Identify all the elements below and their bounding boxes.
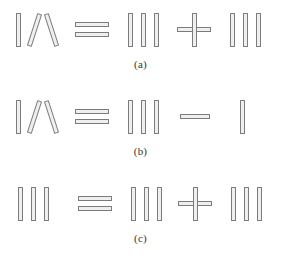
equation-b [0,93,281,141]
matchstick-vertical [240,100,245,134]
equation-c [0,180,281,228]
matchstick-vertical [44,187,49,221]
relation-equals-c [78,180,116,228]
equation-row-c: (c) [0,174,281,262]
operand-left-a-IV [16,6,60,54]
matchstick-slanted [27,100,42,134]
matchstick-vertical [257,187,262,221]
matchstick-vertical [244,187,249,221]
matchstick-vertical [154,100,159,134]
equation-row-a: (a) [0,0,281,88]
operator-plus-c [178,180,216,228]
matchstick-vertical [243,13,248,47]
matchstick-vertical [141,13,146,47]
operator-plus-a [177,6,215,54]
operand-right-a-III [230,6,266,54]
operator-minus-b [180,93,214,141]
operand-right-b-I [240,93,248,141]
matchstick-vertical [131,187,136,221]
matchstick-vertical [18,187,23,221]
caption-a: (a) [0,58,281,70]
matchstick-vertical [230,13,235,47]
operand-middle-b-III [128,93,164,141]
matchstick-figure: (a) [0,0,281,266]
matchstick-vertical [231,187,236,221]
equation-row-b: (b) [0,87,281,175]
matchstick-horizontal [75,109,109,114]
matchstick-vertical [128,100,133,134]
matchstick-vertical [16,13,21,47]
matchstick-slanted [44,100,59,134]
caption-b: (b) [0,145,281,157]
matchstick-horizontal [75,119,109,124]
matchstick-vertical [128,13,133,47]
matchstick-vertical [193,187,198,221]
matchstick-horizontal [180,114,210,119]
matchstick-horizontal [78,206,112,211]
equation-a [0,6,281,54]
operand-left-b-IV [16,93,60,141]
matchstick-vertical [144,187,149,221]
operand-left-c-III [18,180,54,228]
relation-equals-b [75,93,113,141]
operand-middle-c-III [131,180,167,228]
matchstick-vertical [192,13,197,47]
matchstick-vertical [31,187,36,221]
operand-middle-a-III [128,6,164,54]
matchstick-vertical [141,100,146,134]
relation-equals-a [75,6,113,54]
matchstick-slanted [44,13,59,47]
matchstick-vertical [16,100,21,134]
matchstick-horizontal [75,32,109,37]
matchstick-vertical [157,187,162,221]
matchstick-vertical [256,13,261,47]
operand-right-c-III [231,180,267,228]
matchstick-horizontal [75,22,109,27]
matchstick-horizontal [78,196,112,201]
matchstick-vertical [154,13,159,47]
matchstick-slanted [27,13,42,47]
caption-c: (c) [0,232,281,244]
